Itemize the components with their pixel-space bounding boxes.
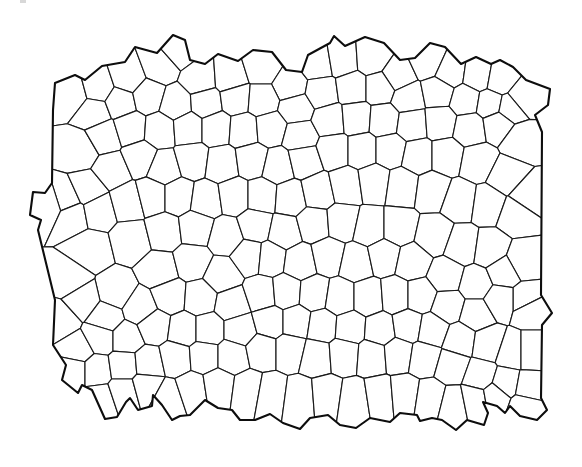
cell xyxy=(487,0,582,95)
cell xyxy=(203,368,235,467)
cell xyxy=(307,308,337,343)
cell xyxy=(0,0,87,134)
cell xyxy=(335,310,366,344)
cell xyxy=(248,177,277,214)
cell xyxy=(285,0,332,80)
cell xyxy=(108,351,137,379)
cell xyxy=(357,339,387,378)
cell xyxy=(385,166,419,208)
cell xyxy=(0,353,85,461)
cell xyxy=(506,233,582,282)
cell xyxy=(329,338,359,378)
cell xyxy=(0,124,99,174)
cell xyxy=(369,103,399,137)
cell xyxy=(425,106,457,141)
cell xyxy=(342,101,371,136)
cell xyxy=(390,373,419,467)
cell xyxy=(381,275,408,315)
cell xyxy=(325,276,354,316)
cell xyxy=(283,304,311,339)
cell xyxy=(354,276,383,317)
cell-tessellation-figure xyxy=(0,0,582,467)
cell xyxy=(218,176,248,217)
cell xyxy=(508,2,582,122)
cell xyxy=(196,312,224,345)
cell xyxy=(85,354,112,387)
cell xyxy=(521,330,582,373)
stray-mark xyxy=(20,0,26,3)
